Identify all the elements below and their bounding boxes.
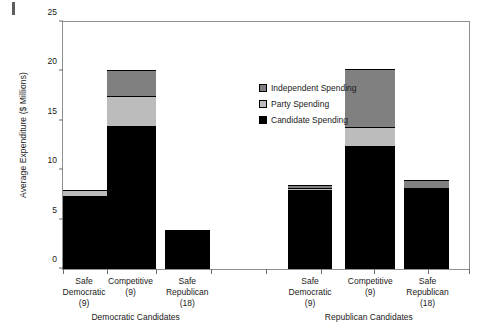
bar-segment-independent bbox=[404, 180, 449, 188]
y-axis-title: Average Expenditure ($ Millions) bbox=[18, 30, 28, 240]
y-axis-tick-label: 25 bbox=[48, 7, 63, 17]
x-axis-tick-mark bbox=[211, 269, 212, 274]
legend-swatch-independent bbox=[259, 84, 267, 92]
bar-segment-party bbox=[63, 190, 107, 197]
bar-segment-candidate bbox=[63, 197, 107, 269]
y-axis-tick-mark bbox=[59, 70, 63, 71]
stacked-bar bbox=[165, 230, 210, 269]
category-label-line: Safe bbox=[378, 276, 478, 287]
y-axis-tick-label: 0 bbox=[52, 254, 63, 264]
bar-segment-independent bbox=[165, 230, 210, 231]
bar-segment-party bbox=[345, 127, 395, 147]
bar-segment-candidate bbox=[288, 191, 332, 269]
x-axis-tick-mark bbox=[469, 269, 470, 274]
x-axis-tick-mark bbox=[156, 269, 157, 274]
bar-segment-independent bbox=[288, 185, 332, 188]
legend-label: Party Spending bbox=[271, 99, 329, 109]
x-axis-tick-mark bbox=[321, 269, 322, 274]
stacked-bar bbox=[107, 70, 156, 269]
group-label: Republican Candidates bbox=[279, 312, 459, 322]
category-label: SafeRepublican(18) bbox=[137, 276, 237, 309]
stacked-bar bbox=[404, 180, 449, 269]
legend-label: Independent Spending bbox=[271, 83, 357, 93]
legend-item: Independent Spending bbox=[259, 81, 357, 94]
y-axis-tick-label: 5 bbox=[52, 205, 63, 215]
category-label-line: (9) bbox=[34, 298, 134, 309]
y-axis-tick-mark bbox=[59, 169, 63, 170]
x-axis-tick-mark bbox=[266, 269, 267, 274]
bar-segment-candidate bbox=[165, 232, 210, 269]
group-label: Democratic Candidates bbox=[46, 312, 226, 322]
stacked-bar bbox=[288, 185, 332, 269]
legend-swatch-candidate bbox=[259, 116, 267, 124]
category-label-line: (9) bbox=[260, 298, 360, 309]
corner-artifact-mark bbox=[12, 2, 15, 15]
bar-segment-independent bbox=[107, 70, 156, 96]
bar-segment-candidate bbox=[345, 147, 395, 270]
stacked-bar bbox=[63, 190, 107, 269]
category-label-line: Safe bbox=[137, 276, 237, 287]
category-label-line: Republican bbox=[378, 287, 478, 298]
x-axis-tick-mark bbox=[63, 269, 64, 274]
bar-segment-party bbox=[107, 96, 156, 127]
y-axis-tick-mark bbox=[59, 119, 63, 120]
legend-label: Candidate Spending bbox=[271, 115, 348, 125]
category-label-line: (18) bbox=[378, 298, 478, 309]
y-axis-tick-mark bbox=[59, 21, 63, 22]
x-axis-tick-mark bbox=[107, 269, 108, 274]
bar-segment-party bbox=[288, 188, 332, 191]
legend-swatch-party bbox=[259, 100, 267, 108]
bar-segment-candidate bbox=[107, 127, 156, 269]
bar-segment-candidate bbox=[404, 188, 449, 269]
x-axis-tick-mark bbox=[428, 269, 429, 274]
legend-item: Candidate Spending bbox=[259, 113, 357, 126]
y-axis-tick-label: 10 bbox=[48, 155, 63, 165]
legend-item: Party Spending bbox=[259, 97, 357, 110]
category-label-line: Republican bbox=[137, 287, 237, 298]
chart-legend: Independent SpendingParty SpendingCandid… bbox=[259, 81, 357, 129]
y-axis-tick-label: 20 bbox=[48, 56, 63, 66]
chart-plot-area: 0510152025 Independent SpendingParty Spe… bbox=[62, 21, 470, 270]
category-label: SafeRepublican(18) bbox=[378, 276, 478, 309]
y-axis-tick-label: 15 bbox=[48, 106, 63, 116]
x-axis-tick-mark bbox=[374, 269, 375, 274]
category-label-line: (18) bbox=[137, 298, 237, 309]
